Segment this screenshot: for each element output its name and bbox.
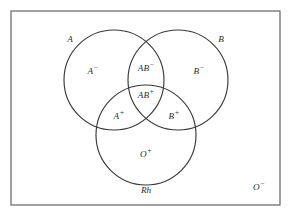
region-label-b-negative: B− [194,64,205,76]
region-label-a-negative: A− [87,64,99,76]
region-label-o-negative: O− [253,180,265,192]
region-sign-b-negative: − [199,64,204,72]
set-label-b: B [218,34,224,44]
set-label-a: A [66,34,73,44]
region-sign-a-negative: − [93,64,98,72]
region-label-b-positive: B+ [169,109,180,121]
region-label-a-positive: A+ [113,109,125,121]
region-base-ab-positive: AB [137,90,150,100]
region-sign-ab-negative: − [149,61,154,69]
set-label-rh: Rh [140,185,152,195]
region-sign-o-positive: + [147,147,152,155]
region-label-ab-positive: AB+ [137,88,155,100]
region-sign-a-positive: + [119,109,124,117]
region-sign-b-positive: + [174,109,179,117]
venn-diagram-canvas: A B Rh A− AB− B− AB+ A+ B+ O+ O− [0,0,292,212]
venn-diagram: A B Rh A− AB− B− AB+ A+ B+ O+ O− [0,0,292,212]
universal-set-frame [11,11,280,205]
region-sign-o-negative: − [260,180,265,188]
region-label-o-positive: O+ [140,147,152,159]
region-label-ab-negative: AB− [137,61,155,73]
region-base-ab-negative: AB [137,63,150,73]
region-sign-ab-positive: + [149,88,154,96]
